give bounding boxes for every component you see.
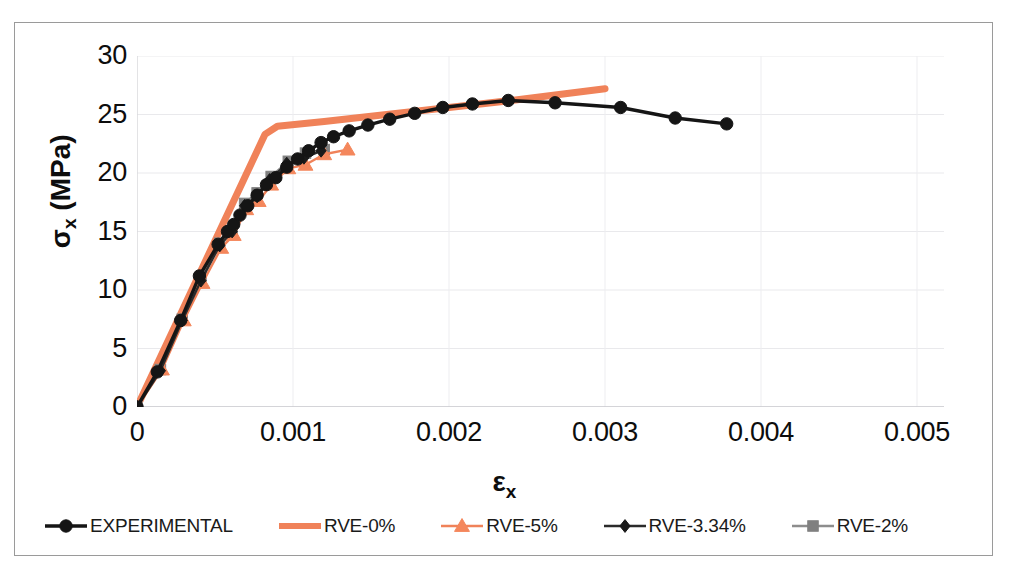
x-tick-label: 0.002 (416, 419, 482, 446)
legend-item-experimental[interactable]: EXPERIMENTAL (43, 515, 233, 537)
legend-marker-none-icon (277, 516, 323, 536)
legend-label: RVE-2% (837, 515, 908, 537)
legend-item-rve-0[interactable]: RVE-0% (277, 515, 395, 537)
x-axis-title: εx (15, 466, 994, 503)
y-axis-title: σx (MPa) (45, 91, 82, 291)
legend-item-rve-3-34[interactable]: RVE-3.34% (602, 515, 746, 537)
legend-marker-square-icon (790, 516, 836, 536)
plot-area (137, 56, 944, 407)
legend-item-rve-5[interactable]: RVE-5% (439, 515, 557, 537)
x-tick-label: 0.003 (572, 419, 638, 446)
legend-item-rve-2[interactable]: RVE-2% (790, 515, 908, 537)
legend-marker-circle-icon (43, 516, 89, 536)
legend-label: RVE-0% (324, 515, 395, 537)
x-axis-title-subscript: x (506, 481, 517, 502)
plot-canvas (137, 56, 944, 407)
chart-legend: EXPERIMENTALRVE-0%RVE-5%RVE-3.34%RVE-2% (43, 509, 973, 543)
legend-label: EXPERIMENTAL (90, 515, 233, 537)
gridlines (137, 56, 944, 407)
legend-label: RVE-5% (486, 515, 557, 537)
x-tick-label: 0 (130, 419, 145, 446)
y-axis-title-subscript: x (59, 218, 80, 229)
series-rve-2 (137, 144, 329, 407)
series-rve-0 (137, 89, 605, 407)
legend-marker-triangle-icon (439, 516, 485, 536)
legend-marker-diamond-icon (602, 516, 648, 536)
chart-figure-frame: 051015202530 00.0010.0020.0030.0040.005 … (14, 22, 993, 556)
x-tick-label: 0.004 (728, 419, 794, 446)
y-axis-title-sigma: σ (45, 229, 76, 248)
legend-label: RVE-3.34% (649, 515, 746, 537)
y-axis-title-unit: (MPa) (45, 134, 76, 218)
x-tick-label: 0.005 (884, 419, 950, 446)
x-axis-title-epsilon: ε (493, 466, 506, 497)
x-tick-label: 0.001 (260, 419, 326, 446)
